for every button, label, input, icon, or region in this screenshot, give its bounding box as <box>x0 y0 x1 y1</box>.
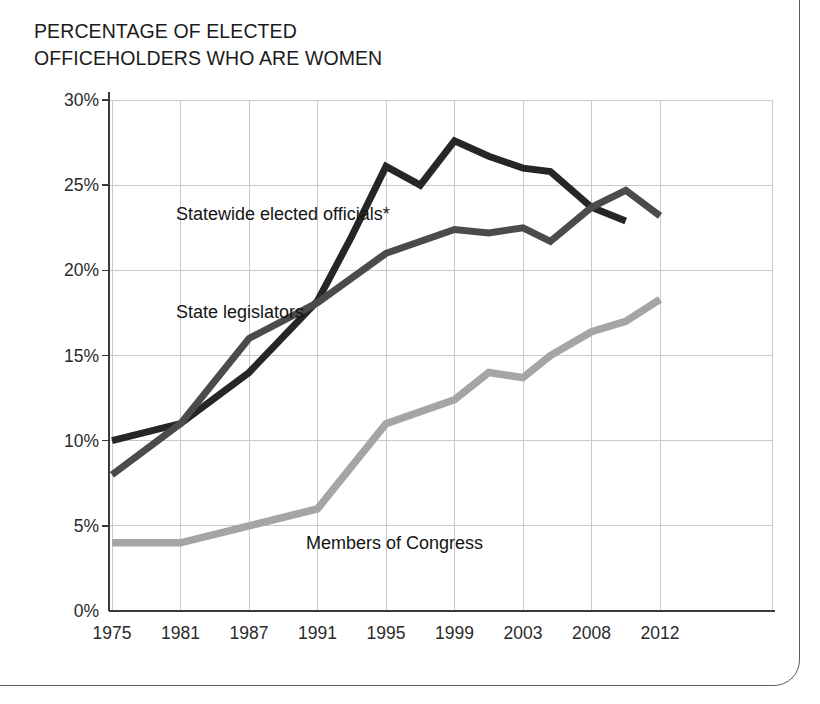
series-label-state-legislators: State legislators <box>176 302 304 323</box>
x-tick-label: 1981 <box>146 623 216 644</box>
plot-area: 0%5%10%15%20%25%30% 19751981198719911995… <box>0 0 820 704</box>
y-tick-label: 30% <box>35 90 99 111</box>
x-tick-label: 1999 <box>420 623 490 644</box>
x-tick-label: 1987 <box>214 623 284 644</box>
x-tick-label: 1975 <box>77 623 147 644</box>
x-tick-label: 2003 <box>488 623 558 644</box>
series-label-members-of-congress: Members of Congress <box>306 533 483 554</box>
y-tick-label: 20% <box>35 260 99 281</box>
series-label-statewide: Statewide elected officials* <box>176 204 390 225</box>
chart-page: PERCENTAGE OF ELECTED OFFICEHOLDERS WHO … <box>0 0 820 704</box>
series-line-statewide-elected-officials <box>112 141 626 441</box>
x-tick-label: 1995 <box>351 623 421 644</box>
y-tick-label: 10% <box>35 430 99 451</box>
line-chart-svg <box>0 0 820 704</box>
y-tick-label: 15% <box>35 345 99 366</box>
y-tick-label: 25% <box>35 175 99 196</box>
x-tick-label: 1991 <box>283 623 353 644</box>
y-tick-label: 0% <box>35 601 99 622</box>
x-tick-label: 2008 <box>557 623 627 644</box>
x-tick-label: 2012 <box>625 623 695 644</box>
y-tick-label: 5% <box>35 515 99 536</box>
